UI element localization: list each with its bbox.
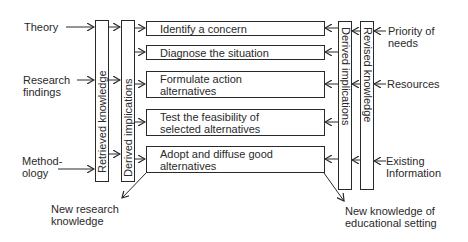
retrieved-knowledge-label: Retrieved knowledge [96, 70, 108, 173]
step-text-line2: alternatives [160, 160, 324, 172]
input-research-findings-line2: findings [23, 86, 61, 98]
left-derived-implications-label: Derived implications [122, 79, 134, 177]
output-new-knowledge-setting-line1: New knowledge of [345, 205, 435, 217]
input-existing-information-line2: Information [386, 167, 441, 179]
input-existing-information-line1: Existing [386, 155, 425, 167]
right-derived-implications-label: Derived implications [340, 27, 352, 125]
step-formulate-alternatives: Formulate action alternatives [146, 71, 325, 98]
step-text: Diagnose the situation [160, 47, 324, 59]
output-new-research-knowledge-line2: knowledge [51, 215, 104, 227]
step-test-feasibility: Test the feasibility of selected alterna… [146, 109, 325, 136]
step-text-line2: alternatives [160, 85, 324, 97]
input-research-findings-line1: Research [23, 74, 70, 86]
right-derived-implications-column: Derived implications [338, 21, 352, 190]
step-text-line2: selected alternatives [160, 123, 324, 135]
revised-knowledge-label: Revised knowledge [362, 27, 374, 122]
retrieved-knowledge-column: Retrieved knowledge [95, 20, 109, 182]
input-priority-needs-line2: needs [388, 37, 418, 49]
step-text-line1: Adopt and diffuse good [160, 148, 324, 160]
input-resources: Resources [387, 78, 440, 90]
input-priority-needs-line1: Priority of [388, 25, 434, 37]
step-identify-concern: Identify a concern [146, 21, 325, 36]
step-text-line1: Formulate action [160, 73, 324, 85]
step-diagnose-situation: Diagnose the situation [146, 45, 325, 60]
revised-knowledge-column: Revised knowledge [360, 21, 374, 190]
left-derived-implications-column: Derived implications [121, 20, 135, 182]
input-methodology-line1: Method- [22, 155, 62, 167]
output-new-knowledge-setting-line2: educational setting [345, 217, 437, 229]
input-methodology-line2: ology [22, 167, 48, 179]
step-text-line1: Test the feasibility of [160, 111, 324, 123]
output-new-research-knowledge-line1: New research [51, 203, 119, 215]
step-adopt-diffuse: Adopt and diffuse good alternatives [146, 146, 325, 173]
input-theory: Theory [24, 21, 58, 33]
step-text: Identify a concern [160, 23, 324, 35]
